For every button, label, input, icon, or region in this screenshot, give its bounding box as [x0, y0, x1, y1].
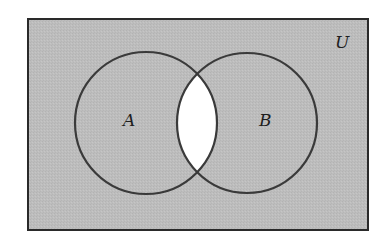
set-b-label: B — [258, 110, 272, 130]
set-a-label: A — [121, 110, 135, 130]
venn-diagram: U A B — [0, 0, 391, 245]
universe-label: U — [335, 32, 350, 52]
